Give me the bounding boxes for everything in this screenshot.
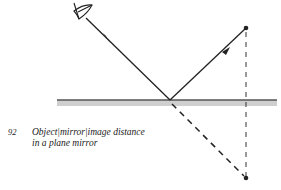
caption-line-2: in a plane mirror bbox=[32, 138, 97, 149]
reflected-ray bbox=[86, 18, 170, 100]
figure-number: 92 bbox=[8, 127, 17, 138]
caption-line-1: Object|mirror|image distance bbox=[32, 127, 145, 138]
plane-mirror bbox=[57, 100, 277, 106]
incident-ray bbox=[170, 28, 246, 100]
image-dot bbox=[244, 176, 249, 181]
object-dot bbox=[244, 26, 249, 31]
arrow-head-icon bbox=[222, 47, 230, 55]
eye-icon bbox=[74, 3, 92, 19]
virtual-ray-dashed-line bbox=[172, 104, 244, 176]
plane-mirror-diagram bbox=[0, 0, 281, 190]
arrow-head-icon bbox=[103, 33, 110, 43]
